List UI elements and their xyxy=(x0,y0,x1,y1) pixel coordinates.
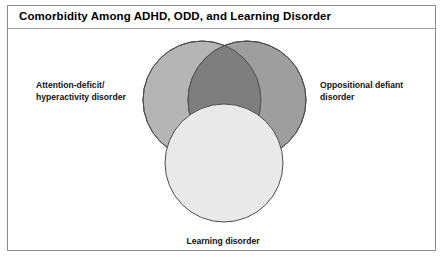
venn-label-odd-line2: disorder xyxy=(320,92,403,104)
venn-label-adhd: Attention-deficit/ hyperactivity disorde… xyxy=(36,80,126,103)
venn-circle-learning xyxy=(165,104,283,222)
venn-label-odd: Oppositional defiant disorder xyxy=(320,80,403,103)
figure-container: Comorbidity Among ADHD, ODD, and Learnin… xyxy=(0,0,446,266)
venn-label-odd-line1: Oppositional defiant xyxy=(320,80,403,92)
venn-label-adhd-line1: Attention-deficit/ xyxy=(36,80,126,92)
venn-label-learning-line1: Learning disorder xyxy=(0,236,446,248)
venn-label-adhd-line2: hyperactivity disorder xyxy=(36,92,126,104)
venn-label-learning: Learning disorder xyxy=(0,236,446,248)
venn-diagram xyxy=(0,0,446,266)
